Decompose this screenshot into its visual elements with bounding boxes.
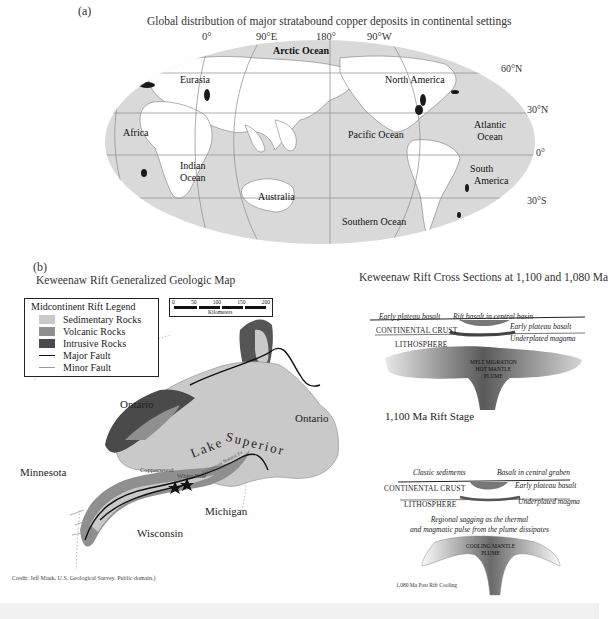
sagging-line1: Regional sagging as the thermal <box>410 515 549 525</box>
legend-label: Sedimentary Rocks <box>63 314 141 325</box>
label-arctic-ocean: Arctic Ocean <box>273 45 329 57</box>
legend-item-major-fault: Major Fault <box>31 349 152 361</box>
major-fault-line-icon <box>39 355 55 356</box>
label-continental-crust: CONTINENTAL CRUST <box>376 326 457 335</box>
latitude-label: 30°N <box>527 104 548 115</box>
latitude-label: 0° <box>536 147 545 158</box>
label-indian-ocean: Indian Ocean <box>180 160 206 184</box>
label-early-plateau-basalt-1080: Early plateau basalt <box>515 481 576 490</box>
map-legend: Midcontinent Rift Legend Sedimentary Roc… <box>24 298 159 377</box>
stage-label-1080: 1,080 Ma Post Rift Cooling <box>396 582 457 588</box>
label-continental-crust-1080: CONTINENTAL CRUST <box>384 484 465 493</box>
legend-label: Volcanic Rocks <box>63 326 125 337</box>
legend-label: Major Fault <box>63 350 111 361</box>
intrusive-swatch <box>39 339 55 348</box>
label-atlantic-line2: Ocean <box>474 131 506 143</box>
deposit-marker <box>141 169 147 177</box>
stage-label-1100: 1,100 Ma Rift Stage <box>385 410 474 422</box>
label-minnesota: Minnesota <box>20 466 66 478</box>
deposit-marker <box>451 90 459 94</box>
label-wisconsin: Wisconsin <box>137 527 183 539</box>
label-cooling-plume: COOLING MANTLE PLUME <box>466 543 515 557</box>
sedimentary-swatch <box>39 315 55 324</box>
scale-tick: 0 <box>172 299 175 305</box>
label-michigan: Michigan <box>205 505 247 517</box>
legend-title: Midcontinent Rift Legend <box>31 301 152 313</box>
latitude-label: 60°N <box>501 63 522 74</box>
label-indian-line2: Ocean <box>180 172 206 184</box>
label-clastic-sediments: Clastic sediments <box>413 468 466 477</box>
label-africa: Africa <box>123 127 149 139</box>
plume-line1: MELT MIGRATION <box>470 359 517 366</box>
deposit-marker <box>420 94 426 106</box>
scale-bar: 0 50 100 150 200 Kilometers <box>169 298 273 317</box>
scale-tick: 50 <box>191 299 197 305</box>
label-south-america: South America <box>470 163 508 187</box>
label-ontario-east: Ontario <box>295 412 329 424</box>
label-north-america: North America <box>385 74 445 86</box>
label-southern-ocean: Southern Ocean <box>342 216 406 228</box>
label-regional-sagging: Regional sagging as the thermal and magm… <box>410 515 549 535</box>
scale-ticks: 0 50 100 150 200 <box>172 299 270 305</box>
plume-line3: PLUME <box>470 373 517 380</box>
cooling-plume-line1: COOLING MANTLE <box>466 543 515 550</box>
deposit-marker <box>139 82 155 88</box>
scale-tick: 100 <box>213 299 221 305</box>
label-plume: MELT MIGRATION HOT MANTLE PLUME <box>470 359 517 380</box>
label-underplated-magma-1080: Underplated magma <box>518 497 580 506</box>
scale-tick: 150 <box>237 299 245 305</box>
label-pacific-ocean: Pacific Ocean <box>348 129 404 141</box>
label-rift-basalt: Rift basalt in central basin <box>453 312 533 321</box>
label-early-plateau-basalt: Early plateau basalt <box>379 312 440 321</box>
legend-label: Intrusive Rocks <box>63 338 126 349</box>
label-eurasia: Eurasia <box>180 74 210 86</box>
label-atlantic-line1: Atlantic <box>474 119 506 131</box>
legend-item-minor-fault: Minor Fault <box>31 361 152 373</box>
legend-item-sedimentary: Sedimentary Rocks <box>31 313 152 325</box>
label-australia: Australia <box>258 191 295 203</box>
scale-unit: Kilometers <box>208 309 232 315</box>
label-ontario-west: Ontario <box>120 398 154 410</box>
volcanic-swatch <box>39 327 55 336</box>
image-credit: Credit: Jeff Mauk, U.S. Geological Surve… <box>12 575 155 581</box>
plume-line2: HOT MANTLE <box>470 366 517 373</box>
map-title: Keweenaw Rift Generalized Geologic Map <box>36 274 235 286</box>
label-copperwood: Copperwood <box>140 466 174 473</box>
label-atlantic-ocean: Atlantic Ocean <box>474 119 506 143</box>
label-basalt-central-graben: Basalt in central graben <box>497 468 570 477</box>
label-early-plateau-basalt-right: Early plateau basalt <box>510 322 571 331</box>
panel-a-label: (a) <box>78 4 91 19</box>
label-south-america-line1: South <box>470 163 508 175</box>
legend-label: Minor Fault <box>63 362 111 373</box>
deposit-marker <box>415 105 423 115</box>
scale-tick: 200 <box>262 299 270 305</box>
sagging-line2: and magmatic pulse from the plume dissip… <box>410 525 549 535</box>
legend-item-volcanic: Volcanic Rocks <box>31 325 152 337</box>
panel-b-label: (b) <box>33 260 47 275</box>
minor-fault-line-icon <box>39 367 55 368</box>
label-south-america-line2: America <box>474 175 508 187</box>
deposit-marker <box>465 184 469 192</box>
label-lithosphere-1080: LITHOSPHERE <box>404 500 457 509</box>
legend-item-intrusive: Intrusive Rocks <box>31 337 152 349</box>
deposit-marker <box>204 89 210 101</box>
cooling-plume-line2: PLUME <box>466 550 515 557</box>
deposit-marker <box>457 212 461 218</box>
label-lithosphere: LITHOSPHERE <box>395 340 448 349</box>
panel-a-title: Global distribution of major stratabound… <box>147 15 511 27</box>
bottom-strip <box>0 603 599 619</box>
latitude-label: 30°S <box>527 195 547 206</box>
label-indian-line1: Indian <box>180 160 206 172</box>
label-underplated-magma: Underplated magama <box>510 334 576 343</box>
cross-sections-title: Keweenaw Rift Cross Sections at 1,100 an… <box>359 271 608 283</box>
